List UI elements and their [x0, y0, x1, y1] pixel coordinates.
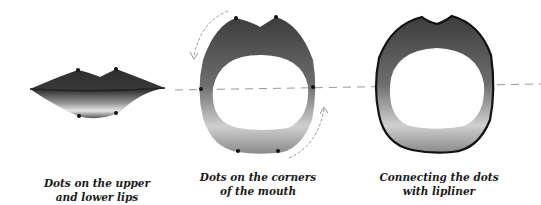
caption-line: of the mouth — [178, 184, 338, 198]
dot-icon — [76, 68, 80, 72]
caption-line: with lipliner — [359, 184, 519, 198]
dot-icon — [311, 85, 315, 89]
caption-closed-lips: Dots on the upper and lower lips — [17, 176, 177, 204]
dot-icon — [276, 149, 280, 153]
dot-icon — [199, 87, 203, 91]
caption-line: Connecting the dots — [359, 170, 519, 184]
caption-open-mouth-dots: Dots on the corners of the mouth — [178, 170, 338, 198]
open-mouth-lined-figure — [376, 16, 493, 153]
open-mouth-dots-figure — [190, 11, 328, 158]
caption-open-mouth-lined: Connecting the dots with lipliner — [359, 170, 519, 198]
dot-icon — [234, 16, 238, 20]
caption-line: Dots on the upper — [17, 176, 177, 190]
closed-lips-figure — [30, 67, 165, 118]
caption-line: and lower lips — [17, 190, 177, 204]
dot-icon — [114, 111, 118, 115]
lip-lining-diagram: Dots on the upper and lower lips Dots on… — [0, 0, 541, 205]
dot-icon — [274, 15, 278, 19]
dot-icon — [77, 114, 81, 118]
dot-icon — [114, 67, 118, 71]
dot-icon — [236, 149, 240, 153]
caption-line: Dots on the corners — [178, 170, 338, 184]
